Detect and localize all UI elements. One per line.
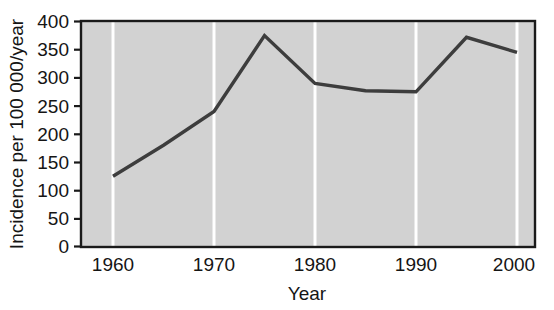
plot-area-background — [81, 21, 535, 247]
x-tick-label-1960: 1960 — [92, 254, 134, 275]
x-tick-label-1990: 1990 — [395, 254, 437, 275]
incidence-line-chart: 400 350 300 250 200 150 100 50 0 1960 19… — [0, 0, 554, 310]
y-axis-title: Incidence per 100 000/year — [6, 18, 27, 249]
x-axis-title: Year — [288, 283, 327, 304]
y-tick-label-0: 0 — [58, 236, 69, 257]
y-tick-label-250: 250 — [37, 96, 69, 117]
y-tick-label-50: 50 — [48, 208, 69, 229]
y-tick-label-100: 100 — [37, 180, 69, 201]
y-tick-label-150: 150 — [37, 152, 69, 173]
y-tick-label-200: 200 — [37, 124, 69, 145]
chart-figure: 400 350 300 250 200 150 100 50 0 1960 19… — [0, 0, 554, 310]
x-tick-label-1970: 1970 — [193, 254, 235, 275]
y-tick-label-300: 300 — [37, 67, 69, 88]
y-tick-label-400: 400 — [37, 11, 69, 32]
x-tick-label-1980: 1980 — [294, 254, 336, 275]
y-tick-label-350: 350 — [37, 39, 69, 60]
x-tick-label-2000: 2000 — [493, 254, 535, 275]
